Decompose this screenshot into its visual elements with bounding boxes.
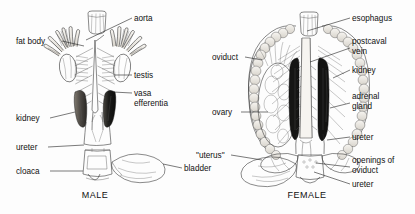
label-kidney-female: kidney [352, 66, 377, 75]
urinary-bladder-male [112, 154, 165, 183]
label-ureter-lower: ureter [352, 180, 374, 189]
label-ureter: ureter [16, 143, 38, 152]
label-vasa-efferentia: vasa [134, 89, 152, 98]
label-postcaval-vein: postcaval [352, 37, 387, 46]
kidney-left-male [74, 90, 87, 127]
label-openings-of-oviduct-line2: oviduct [352, 166, 379, 175]
label-vasa-efferentia-line2: efferentia [134, 99, 168, 108]
postcaval-vein-female [300, 38, 312, 143]
label-cloaca: cloaca [16, 167, 40, 176]
testis-right [112, 53, 133, 83]
label-openings-of-oviduct: openings of [352, 156, 395, 165]
esophagus-stump-male [88, 11, 106, 34]
label-adrenal-gland-line2: gland [352, 102, 372, 111]
label-bladder: bladder [184, 164, 212, 173]
label-uterus: "uterus" [196, 151, 225, 160]
label-ureter-female: ureter [352, 133, 374, 142]
fat-body-right [110, 27, 146, 57]
label-ovary: ovary [212, 108, 233, 117]
label-esophagus: esophagus [352, 14, 392, 23]
fat-body-left [44, 27, 80, 57]
kidney-right-male [103, 90, 116, 127]
male-diagram: fat body aorta testis vasa efferentia ki… [16, 11, 212, 200]
label-oviduct: oviduct [212, 53, 239, 62]
label-postcaval-vein-line2: vein [352, 47, 367, 56]
testis-left [58, 53, 79, 83]
kidney-right-female [318, 58, 329, 141]
esophagus-female [300, 12, 318, 36]
mesentery-male [76, 56, 114, 81]
caption-female: FEMALE [287, 190, 326, 200]
label-kidney: kidney [16, 114, 41, 123]
label-fat-body: fat body [16, 37, 46, 46]
label-testis: testis [134, 71, 153, 80]
label-adrenal-gland: adrenal [352, 92, 379, 101]
cloaca-male [83, 148, 112, 180]
label-aorta: aorta [134, 14, 153, 23]
female-diagram: esophagus postcaval vein kidney adrenal … [196, 12, 395, 200]
caption-male: MALE [82, 190, 109, 200]
frog-urogenital-figure: fat body aorta testis vasa efferentia ki… [0, 0, 415, 214]
cloaca-female [296, 155, 324, 183]
